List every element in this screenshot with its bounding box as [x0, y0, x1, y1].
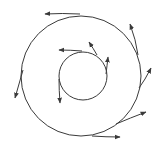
- outer-arrow-lower-right-icon: [116, 112, 146, 124]
- inner-circle: [59, 52, 107, 100]
- outer-circle: [21, 16, 141, 136]
- rotation-diagram: [0, 0, 163, 150]
- circles: [21, 16, 141, 136]
- outer-arrow-bottom-icon: [92, 136, 120, 137]
- velocity-arrows: [15, 14, 151, 138]
- inner-arrow-top-icon: [59, 50, 82, 51]
- outer-arrow-top-icon: [45, 14, 80, 15]
- outer-arrow-upper-right-icon: [130, 24, 138, 55]
